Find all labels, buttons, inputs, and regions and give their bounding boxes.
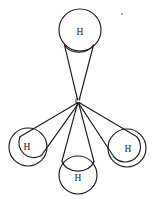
lobe-edge-bl-upper [20,103,78,137]
lobe-cap-bottom-center [62,161,94,171]
hydrogen-label-top: H [77,27,84,37]
hydrogen-label-bottom-left: H [24,142,31,152]
lobe-edge-br-lower [79,104,114,157]
lobe-edge-bc-right [79,103,94,161]
bond-lobe-bottom-center [62,103,94,171]
hydrogen-label-bottom-right: H [125,144,132,154]
lobe-edge-top-left [65,45,78,100]
figure-canvas: H H H H C [0,0,155,203]
lobe-edge-bc-left [62,103,78,161]
scan-speck-icon [121,13,123,15]
hydrogen-label-bottom-center: H [75,173,82,183]
methane-orbital-figure: H H H H C [0,0,155,203]
lobe-edge-top-right [79,45,93,100]
carbon-label: C [75,96,81,106]
lobe-edge-br-upper [79,103,137,137]
bond-lobe-top [65,45,94,100]
